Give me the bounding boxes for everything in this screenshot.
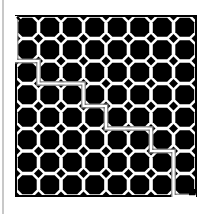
wall-block — [130, 18, 149, 37]
wall-block — [63, 175, 82, 194]
wall-block — [130, 108, 149, 127]
wall-block — [175, 85, 194, 104]
wall-block — [108, 153, 127, 172]
wall-block — [63, 40, 82, 59]
wall-block — [85, 130, 104, 149]
wall-block — [175, 40, 194, 59]
wall-block — [40, 130, 59, 149]
wall-block — [175, 108, 194, 127]
wall-block — [85, 40, 104, 59]
wall-block — [175, 130, 194, 149]
wall-block — [40, 63, 59, 82]
wall-block — [175, 63, 194, 82]
wall-block — [40, 175, 59, 194]
wall-block — [108, 108, 127, 127]
wall-block — [85, 18, 104, 37]
wall-block — [40, 40, 59, 59]
wall-block — [153, 108, 172, 127]
wall-block — [18, 175, 37, 194]
wall-block — [85, 175, 104, 194]
wall-block — [40, 108, 59, 127]
wall-block — [18, 63, 37, 82]
wall-block — [18, 130, 37, 149]
left-divider — [2, 0, 4, 214]
wall-block — [63, 153, 82, 172]
wall-block — [130, 153, 149, 172]
wall-block — [130, 175, 149, 194]
wall-block — [153, 130, 172, 149]
wall-block — [40, 85, 59, 104]
wall-block — [18, 108, 37, 127]
wall-block — [18, 40, 37, 59]
wall-block — [108, 18, 127, 37]
wall-block — [40, 18, 59, 37]
wall-block — [130, 130, 149, 149]
wall-block — [63, 85, 82, 104]
wall-block — [63, 108, 82, 127]
wall-block — [85, 153, 104, 172]
maze-grid[interactable] — [15, 15, 197, 197]
wall-block — [63, 130, 82, 149]
wall-block — [18, 85, 37, 104]
wall-block — [175, 153, 194, 172]
wall-block — [18, 153, 37, 172]
wall-block — [40, 153, 59, 172]
maze-board[interactable] — [15, 15, 197, 197]
wall-block — [130, 85, 149, 104]
wall-block — [108, 63, 127, 82]
wall-block — [108, 40, 127, 59]
wall-block — [153, 153, 172, 172]
wall-block — [85, 63, 104, 82]
wall-block — [153, 63, 172, 82]
wall-block — [85, 85, 104, 104]
wall-block — [63, 18, 82, 37]
wall-block — [153, 175, 172, 194]
wall-block — [175, 18, 194, 37]
wall-block — [130, 63, 149, 82]
wall-block — [108, 130, 127, 149]
wall-block — [108, 175, 127, 194]
wall-block — [153, 18, 172, 37]
wall-block — [63, 63, 82, 82]
wall-block — [108, 85, 127, 104]
wall-block — [130, 40, 149, 59]
wall-block — [153, 40, 172, 59]
wall-block — [153, 85, 172, 104]
wall-block — [85, 108, 104, 127]
